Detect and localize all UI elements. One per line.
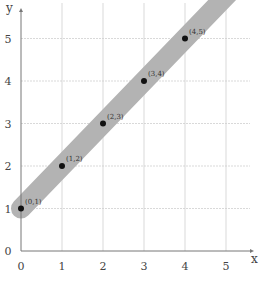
point-label: (1,2): [66, 155, 83, 163]
y-tick-label: 1: [5, 203, 12, 216]
shaded-band: [21, 0, 242, 209]
y-tick-label: 4: [5, 75, 12, 88]
x-tick-label: 4: [182, 260, 189, 273]
data-point: [141, 78, 147, 84]
x-tick-label: 3: [141, 260, 148, 273]
data-point: [100, 121, 106, 127]
data-point: [182, 36, 188, 42]
y-tick-label: 5: [5, 33, 12, 46]
scatter-chart: 012345012345 (0,1)(1,2)(2,3)(3,4)(4,5) x…: [0, 0, 261, 282]
x-tick-label: 5: [223, 260, 230, 273]
y-axis-label: y: [5, 1, 13, 15]
y-axis-arrow-icon: [19, 8, 23, 12]
point-label: (0,1): [25, 198, 42, 206]
data-point: [59, 163, 65, 169]
x-axis-label: x: [251, 252, 258, 266]
x-tick-label: 0: [18, 260, 25, 273]
x-tick-label: 2: [100, 260, 107, 273]
trend-band: [21, 0, 242, 209]
data-point: [18, 206, 24, 212]
x-tick-label: 1: [59, 260, 66, 273]
axes: 012345012345: [5, 8, 255, 273]
point-label: (2,3): [107, 113, 124, 121]
y-tick-label: 3: [5, 118, 12, 131]
y-tick-label: 2: [5, 160, 12, 173]
point-label: (4,5): [189, 28, 206, 36]
point-label: (3,4): [148, 70, 165, 78]
grid-lines: [21, 3, 250, 251]
y-tick-label: 0: [5, 245, 12, 258]
